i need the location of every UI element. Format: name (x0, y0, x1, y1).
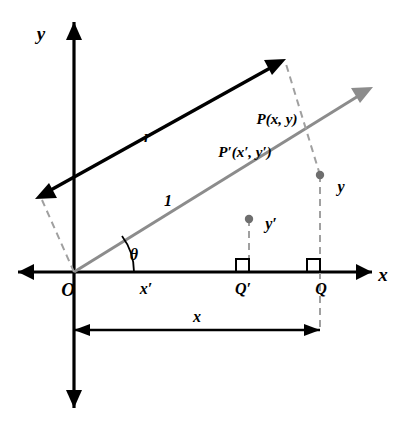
q-prime-label: Q′ (235, 280, 251, 297)
point-p-marker (316, 171, 324, 179)
r-label: r (144, 128, 151, 145)
dashed-origin-to-r-tail (42, 200, 74, 272)
x-axis-arrow-left-icon (18, 264, 34, 280)
labels-group: y x O r 1 θ P′(x′, y′) P(x, y) y′ y x′ x… (35, 23, 388, 325)
theta-label: θ (130, 246, 139, 263)
unit-ray-line (74, 90, 368, 272)
vector-r-arrow-head-icon (264, 59, 286, 75)
x-measure-arrow-left-icon (74, 324, 90, 336)
origin-label: O (61, 279, 75, 300)
y-axis-arrow-down-icon (66, 390, 82, 408)
right-angle-q-icon (307, 259, 320, 272)
dashed-construction-group (42, 64, 320, 330)
point-pprime-marker (245, 215, 253, 223)
q-label: Q (315, 280, 327, 297)
y-axis-arrow-up-icon (66, 22, 82, 40)
right-angle-qprime-icon (236, 259, 249, 272)
points-group (245, 171, 324, 223)
x-prime-length-label: x′ (139, 280, 153, 297)
vector-r-line (40, 62, 281, 196)
similar-triangles-figure: y x O r 1 θ P′(x′, y′) P(x, y) y′ y x′ x… (0, 0, 409, 431)
diagram-canvas: y x O r 1 θ P′(x′, y′) P(x, y) y′ y x′ x… (0, 0, 409, 431)
p-label: P(x, y) (257, 111, 298, 128)
p-prime-label: P′(x′, y′) (218, 144, 271, 161)
y-prime-length-label: y′ (263, 215, 277, 233)
unit-length-label: 1 (164, 192, 172, 209)
y-axis-label: y (35, 23, 46, 44)
x-measure-arrow-right-icon (304, 324, 320, 336)
x-length-label: x (192, 308, 201, 325)
y-length-label: y (335, 178, 345, 196)
right-angle-marks-group (236, 259, 320, 272)
x-axis-label: x (377, 264, 388, 285)
axes-group (18, 22, 372, 408)
unit-ray-arrow-icon (351, 87, 373, 103)
unit-ray-group (74, 87, 373, 272)
vector-r-arrow-tail-icon (35, 183, 57, 199)
x-axis-arrow-right-icon (356, 264, 372, 280)
